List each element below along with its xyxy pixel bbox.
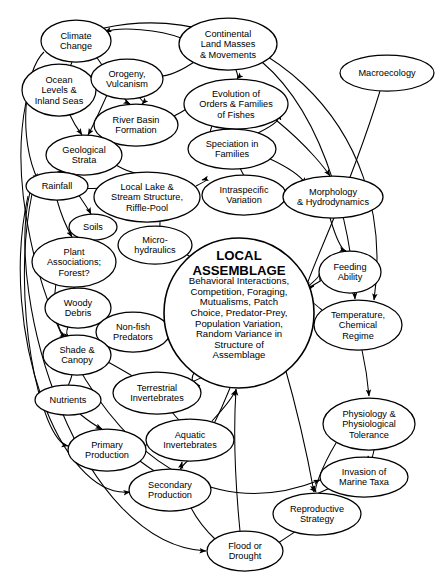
node-label: Invasion ofMarine Taxa	[339, 467, 390, 487]
node-label: PrimaryProduction	[85, 440, 129, 460]
node-label: Rainfall	[42, 181, 73, 191]
edge-evolution-orders-to-morphology-hydrodynamics	[276, 120, 330, 176]
edge-local-lake-stream-to-intraspecific-variation	[196, 179, 207, 186]
edge-ocean-levels-to-geological-strata	[70, 115, 82, 135]
node-terrestrial-invertebrates[interactable]: TerrestrialInvertebrates	[113, 372, 201, 414]
node-plant-associations[interactable]: PlantAssociations;Forest?	[32, 237, 116, 287]
edge-continental-land-masses-to-climate-change	[105, 29, 181, 38]
node-feeding-ability[interactable]: FeedingAbility	[319, 251, 381, 293]
node-label: Macroecology	[358, 68, 416, 78]
node-label: WoodyDebris	[64, 298, 93, 318]
node-climate-change[interactable]: ClimateChange	[41, 20, 111, 62]
edge-nutrients-to-primary-production	[80, 414, 102, 429]
edge-woody-debris-to-shade-canopy	[67, 327, 70, 336]
node-continental-land-masses[interactable]: ContinentalLand Masses& Movements	[179, 18, 277, 70]
edge-local-assemblage-to-reproductive-strategy	[284, 364, 314, 492]
node-temperature-chemical[interactable]: Temperature,ChemicalRegime	[314, 300, 402, 350]
edge-shade-canopy-to-nutrients	[68, 375, 72, 385]
node-macroecology[interactable]: Macroecology	[340, 55, 434, 91]
node-label: TerrestrialInvertebrates	[130, 383, 184, 403]
node-nutrients[interactable]: Nutrients	[35, 385, 101, 415]
node-intraspecific-variation[interactable]: IntraspecificVariation	[202, 175, 286, 215]
node-reproductive-strategy[interactable]: ReproductiveStrategy	[273, 493, 361, 535]
edge-geological-strata-to-local-lake-stream	[114, 164, 140, 173]
node-rainfall[interactable]: Rainfall	[26, 172, 88, 200]
node-layer: ClimateChangeContinentalLand Masses& Mov…	[22, 18, 434, 571]
edge-speciation-in-families-to-morphology-hydrodynamics	[268, 158, 306, 184]
node-label: River BasinFormation	[113, 115, 160, 135]
node-label: SecondaryProduction	[148, 480, 192, 500]
node-label: Nutrients	[50, 395, 87, 405]
node-evolution-orders[interactable]: Evolution ofOrders & Familiesof Fishes	[184, 79, 288, 129]
edge-continental-land-masses-to-evolution-orders	[236, 70, 238, 79]
node-primary-production[interactable]: PrimaryProduction	[68, 429, 146, 471]
node-orogeny-vulcanism[interactable]: Orogeny,Vulcanism	[91, 59, 163, 99]
node-speciation-in-families[interactable]: Speciation inFamilies	[188, 129, 276, 169]
edge-aquatic-invertebrates-to-local-assemblage	[212, 390, 236, 421]
node-label: Physiology &PhysiologicalTolerance	[342, 409, 396, 440]
node-shade-canopy[interactable]: Shade &Canopy	[43, 335, 111, 375]
node-geological-strata[interactable]: GeologicalStrata	[46, 135, 122, 175]
node-label: Flood orDrought	[228, 541, 262, 561]
node-local-lake-stream[interactable]: Local Lake &Stream Structure,Riffle-Pool	[94, 172, 200, 222]
node-ocean-levels[interactable]: OceanLevels &Inland Seas	[22, 64, 96, 116]
node-label: FeedingAbility	[333, 262, 366, 282]
node-label: ContinentalLand Masses& Movements	[200, 29, 257, 60]
edge-orogeny-vulcanism-to-river-basin-formation	[140, 98, 145, 104]
node-label: Soils	[83, 222, 103, 232]
concept-map-diagram: ClimateChangeContinentalLand Masses& Mov…	[0, 0, 442, 585]
edge-temperature-chemical-to-physiology-tolerance	[362, 350, 369, 396]
node-morphology-hydrodynamics[interactable]: Morphology& Hydrodynamics	[283, 176, 383, 218]
node-label: Orogeny,Vulcanism	[106, 69, 148, 89]
node-secondary-production[interactable]: SecondaryProduction	[129, 469, 211, 511]
node-physiology-tolerance[interactable]: Physiology &PhysiologicalTolerance	[323, 398, 415, 450]
edge-flood-or-drought-to-local-assemblage	[235, 389, 240, 531]
node-aquatic-invertebrates[interactable]: AquaticInvertebrates	[146, 419, 234, 461]
node-flood-or-drought[interactable]: Flood orDrought	[207, 531, 283, 571]
edge-feeding-ability-to-local-assemblage	[311, 280, 322, 287]
node-micro-hydraulics[interactable]: Micro-hydraulics	[118, 226, 192, 264]
node-label: Shade &Canopy	[59, 345, 94, 365]
node-label: IntraspecificVariation	[219, 185, 268, 205]
node-soils[interactable]: Soils	[69, 214, 117, 240]
node-label: ClimateChange	[60, 31, 92, 51]
diagram-canvas: ClimateChangeContinentalLand Masses& Mov…	[0, 0, 442, 585]
edge-rainfall-to-soils	[78, 194, 91, 214]
node-invasion-marine-taxa[interactable]: Invasion ofMarine Taxa	[320, 457, 408, 497]
node-local-assemblage[interactable]: LOCALASSEMBLAGEBehavioral Interactions,C…	[164, 238, 314, 388]
node-label: Non-fishPredators	[113, 322, 153, 342]
